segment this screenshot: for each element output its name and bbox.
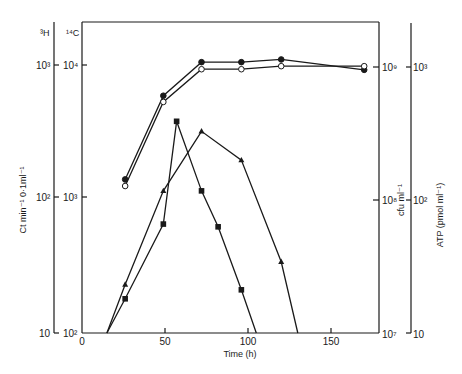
left-outer-header: ³H (40, 28, 50, 38)
right-inner-axis-ticks (373, 67, 379, 200)
filled-triangle-marker (238, 157, 244, 162)
filled-square-marker (174, 119, 180, 125)
chart: ³H 10³ 10² 10 ¹⁴C 10⁴ 10³ 10² Ct min⁻¹ 0… (0, 0, 462, 374)
x-tick-100: 100 (240, 336, 257, 347)
filled-circle-marker (239, 59, 245, 65)
filled-circle-marker (161, 93, 167, 99)
left-outer-tick-1000: 10³ (36, 60, 51, 71)
x-axis-title: Time (h) (223, 349, 256, 359)
filled-square-marker (239, 287, 245, 293)
open-circle-marker (278, 63, 284, 69)
left-inner-header: ¹⁴C (66, 28, 80, 38)
right-outer-tick-10: 10 (413, 329, 425, 340)
right-inner-tick-1e9: 10⁹ (382, 62, 397, 73)
filled-circle-marker (199, 59, 205, 65)
series-line (125, 59, 364, 179)
left-inner-axis-ticks (82, 65, 87, 197)
right-outer-tick-100: 10² (413, 195, 428, 206)
filled-square-marker (122, 296, 128, 302)
open-circle-marker (361, 63, 367, 69)
left-inner-tick-10000: 10⁴ (63, 60, 78, 71)
series-line (107, 131, 298, 333)
series-layer (107, 57, 367, 333)
left-inner-tick-1000: 10³ (63, 192, 78, 203)
series-filled-circle (122, 57, 367, 183)
series-line (107, 121, 256, 333)
x-tick-50: 50 (159, 336, 171, 347)
left-inner-tick-100: 10² (63, 328, 78, 339)
series-filled-square (107, 119, 256, 333)
filled-triangle-marker (278, 259, 284, 264)
right-outer-axis-title: ATP (pmol ml⁻¹) (435, 183, 445, 248)
x-tick-0: 0 (79, 336, 85, 347)
left-outer-tick-10: 10 (39, 328, 51, 339)
filled-circle-marker (278, 57, 284, 63)
open-circle-marker (122, 183, 128, 189)
series-filled-triangle (107, 128, 298, 333)
right-inner-axis-title: cfu ml⁻¹ (396, 184, 406, 216)
filled-triangle-marker (122, 281, 128, 286)
filled-square-marker (161, 221, 167, 227)
left-outer-axis (54, 22, 59, 333)
left-axis-title: Ct min⁻¹ 0·1ml⁻¹ (18, 166, 28, 233)
open-circle-marker (239, 66, 245, 72)
right-outer-axis (406, 23, 411, 333)
right-outer-tick-1000: 10³ (413, 62, 428, 73)
filled-square-marker (199, 188, 205, 194)
x-axis-ticks (165, 328, 331, 333)
open-circle-marker (199, 66, 205, 72)
left-outer-tick-100: 10² (36, 192, 51, 203)
filled-square-marker (215, 224, 221, 230)
x-tick-150: 150 (323, 336, 340, 347)
open-circle-marker (161, 99, 167, 105)
right-inner-tick-1e7: 10⁷ (382, 329, 397, 340)
filled-triangle-marker (199, 128, 205, 133)
